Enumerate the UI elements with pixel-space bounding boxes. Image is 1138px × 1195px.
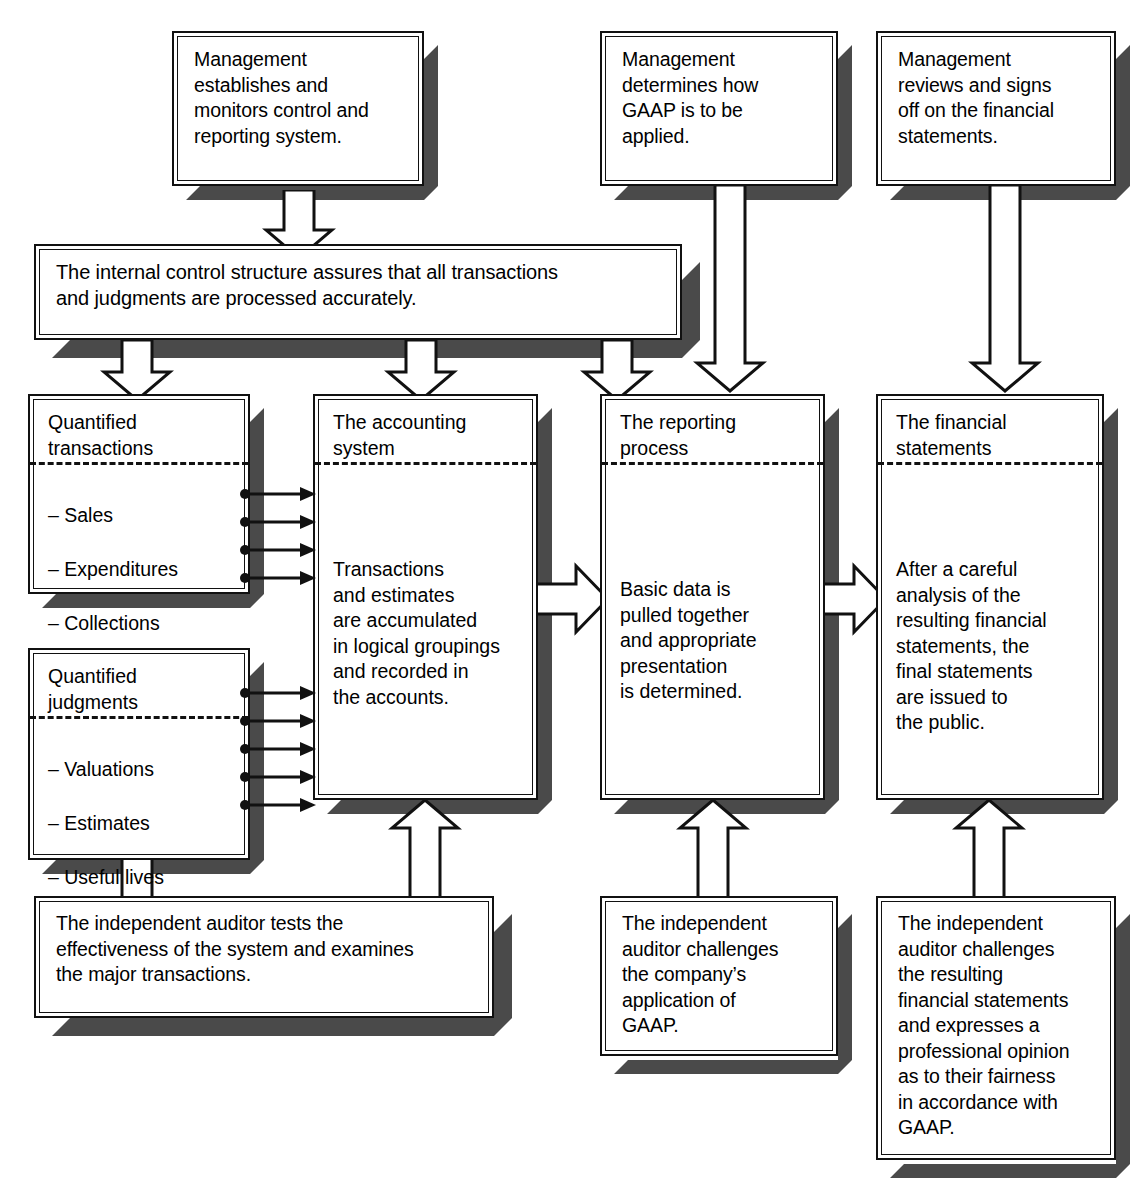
accounting-system-title: The accounting system [315, 396, 536, 461]
auditor-opinion-text: The independent auditor challenges the r… [878, 898, 1114, 1151]
down-block-arrow-gaap-to-reporting [693, 185, 767, 393]
management-gaap-box: Management determines how GAAP is to be … [600, 31, 838, 186]
auditor-tests-system-text: The independent auditor tests the effect… [36, 898, 492, 998]
section-divider [315, 462, 536, 465]
management-gaap-text: Management determines how GAAP is to be … [602, 33, 836, 159]
list-item: – Estimates [48, 810, 238, 837]
up-block-arrow-auditor-to-reporting [676, 800, 750, 902]
management-signoff-text: Management reviews and signs off on the … [878, 33, 1114, 159]
accounting-system-body: Transactions and estimates are accumulat… [315, 557, 536, 710]
up-block-arrow-auditor-to-accounting [388, 800, 462, 900]
financial-statements-box: The financial statements After a careful… [876, 394, 1104, 800]
auditor-tests-system-box: The independent auditor tests the effect… [34, 896, 494, 1018]
management-signoff-box: Management reviews and signs off on the … [876, 31, 1116, 186]
reporting-process-body: Basic data is pulled together and approp… [602, 577, 823, 705]
financial-statements-body: After a careful analysis of the resultin… [878, 557, 1102, 736]
auditor-opinion-box: The independent auditor challenges the r… [876, 896, 1116, 1160]
down-block-arrow-banner-to-reporting [580, 340, 654, 402]
section-divider [878, 462, 1102, 465]
section-divider [30, 462, 248, 465]
section-divider [30, 716, 248, 719]
auditor-challenges-gaap-box: The independent auditor challenges the c… [600, 896, 838, 1056]
flowchart-canvas: Management establishes and monitors cont… [0, 0, 1138, 1195]
reporting-process-box: The reporting process Basic data is pull… [600, 394, 825, 800]
quantified-transactions-box: Quantified transactions – Sales – Expend… [28, 394, 250, 594]
financial-statements-title: The financial statements [878, 396, 1102, 461]
management-control-text: Management establishes and monitors cont… [174, 33, 422, 159]
down-block-arrow-signoff-to-statements [968, 185, 1042, 393]
thin-feed-arrow-group-judgments [240, 684, 318, 820]
internal-control-structure-box: The internal control structure assures t… [34, 244, 682, 340]
list-item: – Expenditures [48, 556, 238, 583]
reporting-process-title: The reporting process [602, 396, 823, 461]
auditor-challenges-gaap-text: The independent auditor challenges the c… [602, 898, 836, 1049]
management-control-box: Management establishes and monitors cont… [172, 31, 424, 186]
up-block-arrow-auditor-to-statements [952, 800, 1026, 902]
thin-feed-arrow-group-transactions [240, 485, 318, 593]
internal-control-structure-text: The internal control structure assures t… [36, 246, 680, 321]
section-divider [602, 462, 823, 465]
quantified-judgments-title: Quantified judgments [30, 650, 248, 715]
list-item: – Collections [48, 610, 238, 637]
list-item: – Valuations [48, 756, 238, 783]
list-item: – Useful lives [48, 864, 238, 891]
list-item: – Sales [48, 502, 238, 529]
quantified-judgments-box: Quantified judgments – Valuations – Esti… [28, 648, 250, 860]
accounting-system-box: The accounting system Transactions and e… [313, 394, 538, 800]
down-block-arrow-banner-to-transactions [100, 340, 174, 402]
quantified-transactions-title: Quantified transactions [30, 396, 248, 461]
down-block-arrow-banner-to-accounting [384, 340, 458, 402]
